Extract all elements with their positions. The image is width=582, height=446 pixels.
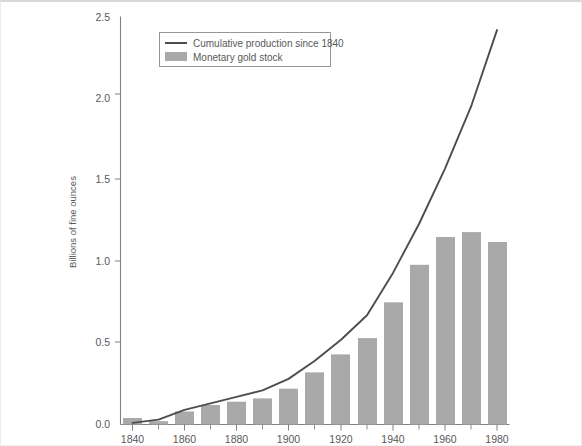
bar-1880 [227, 402, 246, 425]
x-tick-label: 1860 [173, 433, 197, 445]
bar-1930 [358, 338, 377, 424]
x-tick-label: 1840 [121, 433, 145, 445]
chart-legend: Cumulative production since 1840 Monetar… [160, 33, 345, 67]
bar-1940 [384, 302, 403, 424]
chart-figure: Billions of fine ounces 2.5 2.0 1.5 1.0 … [0, 0, 582, 446]
y-tick-label: 2.0 [95, 92, 110, 104]
bar-1970 [462, 232, 481, 424]
bar-1980 [488, 242, 507, 425]
bar-1870 [201, 405, 220, 425]
bar-1920 [331, 354, 350, 424]
bar-1850 [149, 421, 168, 424]
bar-1890 [253, 398, 272, 424]
bar-1950 [410, 265, 429, 425]
bars-group [123, 232, 507, 424]
bar-1960 [436, 237, 455, 425]
x-tick-label: 1940 [381, 433, 405, 445]
bar-1900 [279, 389, 298, 425]
bar-1860 [175, 412, 194, 425]
y-axis-title: Billions of fine ounces [67, 176, 78, 268]
legend-label-cumulative-production: Cumulative production since 1840 [193, 38, 344, 49]
x-tick-label: 1920 [329, 433, 353, 445]
x-axis-tick-labels: 1840 1860 1880 1900 1920 1940 1960 1980 [121, 433, 509, 445]
x-axis-ticks [133, 425, 498, 431]
legend-bar-swatch [165, 52, 187, 61]
y-tick-label: 0.5 [95, 336, 110, 348]
y-tick-label: 1.5 [95, 173, 110, 185]
x-tick-label: 1880 [225, 433, 249, 445]
y-tick-label: 1.0 [95, 255, 110, 267]
y-axis-tick-labels: 2.5 2.0 1.5 1.0 0.5 0.0 [95, 11, 110, 430]
legend-label-monetary-gold-stock: Monetary gold stock [193, 52, 283, 63]
x-tick-label: 1960 [433, 433, 457, 445]
gold-production-chart: Billions of fine ounces 2.5 2.0 1.5 1.0 … [1, 2, 582, 446]
y-tick-label: 0.0 [95, 418, 110, 430]
bar-1910 [305, 372, 324, 424]
x-tick-label: 1900 [277, 433, 301, 445]
x-tick-label: 1980 [485, 433, 509, 445]
y-tick-label: 2.5 [95, 11, 110, 23]
